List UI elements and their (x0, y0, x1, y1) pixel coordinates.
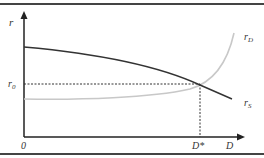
rs-curve-label: rS (244, 97, 252, 110)
origin-label: 0 (21, 140, 26, 151)
x-axis-label: D (225, 140, 234, 151)
dark-declining-curve (24, 47, 232, 99)
dstar-label: D* (191, 140, 204, 151)
rd-curve-label: rD (244, 31, 253, 44)
y-axis-label: r (9, 16, 14, 28)
gray-rising-curve (24, 33, 234, 99)
diagram-canvas: r r0 0 D* D rD rS (0, 0, 264, 158)
y-axis-arrow-icon (21, 11, 28, 19)
x-axis-arrow-icon (237, 134, 245, 141)
r0-label: r0 (8, 78, 16, 91)
